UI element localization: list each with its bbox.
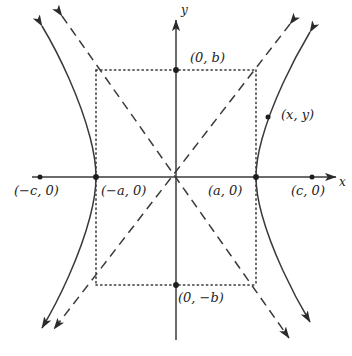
point-focus-right [310,175,315,180]
point-co-vertex-top [173,67,179,73]
label-focus-right: (c, 0) [291,184,325,197]
label-co-vertex-top: (0, b) [190,51,225,64]
label-curve-point: (x, y) [281,108,314,121]
label-vertex-left: (−a, 0) [101,184,146,197]
point-vertex-left [93,174,99,180]
point-focus-left [38,175,43,180]
hyperbola-figure: (−c, 0) (−a, 0) (a, 0) (c, 0) (0, b) (0,… [0,0,352,356]
point-co-vertex-bottom [173,282,179,288]
label-x-axis: x [339,176,346,188]
label-co-vertex-bottom: (0, −b) [178,291,224,304]
point-curve-xy [266,115,271,120]
point-vertex-right [253,174,259,180]
hyperbola-canvas [0,0,352,356]
label-focus-left: (−c, 0) [14,184,59,197]
label-vertex-right: (a, 0) [208,184,242,197]
label-y-axis: y [181,4,188,16]
